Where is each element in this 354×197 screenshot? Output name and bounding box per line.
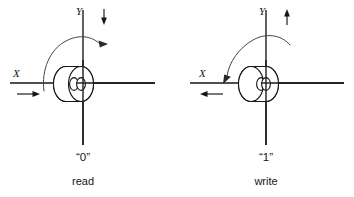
state-label-zero: “0” (76, 152, 90, 164)
operation-label-read: read (72, 176, 94, 187)
figure-canvas: Y X “0” read (0, 0, 354, 197)
ferrite-core-toroid (239, 67, 279, 102)
panel-write-drawing (177, 0, 354, 197)
core-hole-front-edge (77, 78, 86, 91)
y-axis-label: Y (259, 6, 265, 17)
x-current-arrow-left (200, 91, 223, 97)
y-current-arrow-up (284, 9, 290, 25)
y-axis-label: Y (76, 6, 82, 17)
operation-label-write: write (254, 176, 277, 187)
x-axis-label: X (199, 68, 206, 79)
state-label-one: “1” (259, 152, 273, 164)
ferrite-core-toroid (53, 67, 93, 102)
panel-read-drawing (0, 0, 177, 197)
core-front-outer-rim (239, 67, 264, 102)
x-axis-label: X (13, 68, 20, 79)
panel-write: Y X “1” write (177, 0, 354, 197)
y-current-arrow-down (101, 9, 107, 25)
x-current-arrow-right (17, 91, 40, 97)
panel-read: Y X “0” read (0, 0, 177, 197)
